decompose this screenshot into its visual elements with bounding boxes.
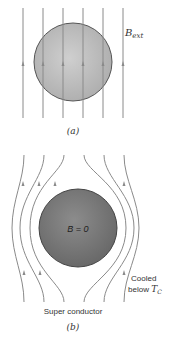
meissner-effect-diagram: Bext (a) B = 0 Cooled below TC Super con… (0, 0, 173, 338)
sphere-normal (34, 23, 112, 101)
inside-field-label: B = 0 (67, 224, 88, 234)
caption-b: (b) (67, 322, 80, 332)
field-arrow-icons-lower (23, 270, 126, 275)
panel-b-superconducting-state: B = 0 Cooled below TC Super conductor (b… (12, 155, 162, 332)
field-arrow-icons-upper (22, 181, 126, 186)
condition-label-line1: Cooled (131, 274, 156, 283)
field-label-b-ext: Bext (124, 27, 143, 40)
condition-label-line2: below TC (128, 284, 162, 295)
caption-a: (a) (67, 126, 80, 136)
material-label: Super conductor (44, 307, 103, 316)
panel-a-normal-state: Bext (a) (22, 8, 144, 136)
